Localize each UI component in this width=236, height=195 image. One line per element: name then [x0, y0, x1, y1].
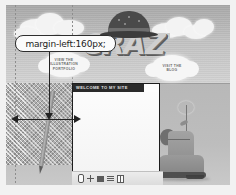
square-icon[interactable]	[97, 175, 104, 182]
css-annotation-text: margin-left:160px;	[25, 39, 105, 49]
nav-line: VISIT THE	[163, 64, 182, 68]
screenshot-stage: CRAZY!	[0, 0, 236, 195]
pin-icon[interactable]	[77, 175, 84, 182]
nav-cloud-illustration-portfolio[interactable]: VIEW THE ILLUSTRATION PORTFOLIO	[44, 52, 84, 77]
nav-cloud-illustration-label: VIEW THE ILLUSTRATION PORTFOLIO	[45, 58, 83, 71]
content-panel: WELCOME TO MY SITE	[72, 83, 160, 173]
flower-leaf	[180, 119, 189, 126]
cloud-decoration	[194, 19, 214, 35]
margin-left-pointer-arrow-line	[49, 50, 50, 116]
columns-icon[interactable]	[117, 175, 124, 182]
content-panel-body	[73, 92, 159, 172]
website-page-frame: CRAZY!	[6, 5, 230, 185]
margin-left-hatched-region-inner	[6, 83, 26, 165]
guide-line-left	[15, 5, 16, 185]
nav-line: ILLUSTRATION	[50, 62, 78, 66]
margin-width-arrow-line	[15, 119, 77, 120]
content-panel-title: WELCOME TO MY SITE	[73, 84, 128, 92]
boot-lace	[168, 139, 190, 140]
content-panel-header: WELCOME TO MY SITE	[73, 84, 144, 92]
plus-icon[interactable]	[87, 175, 94, 182]
nav-line: BLOG	[167, 68, 178, 72]
nav-line: PORTFOLIO	[53, 67, 75, 71]
nav-cloud-blog[interactable]: VISIT THE BLOG	[152, 55, 192, 81]
cloud-decoration	[54, 20, 84, 36]
bottom-toolbar[interactable]	[72, 171, 163, 185]
list-lines-icon[interactable]	[107, 175, 114, 182]
nav-line: VIEW THE	[55, 58, 74, 62]
nav-cloud-blog-label: VISIT THE BLOG	[153, 64, 191, 73]
css-annotation-callout: margin-left:160px;	[15, 35, 116, 52]
margin-width-arrow-head-right	[74, 115, 81, 123]
